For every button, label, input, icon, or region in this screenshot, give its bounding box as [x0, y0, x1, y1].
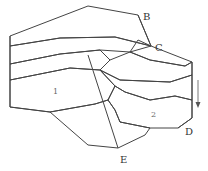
block-number-1: 1 [53, 87, 58, 96]
layer-top-v-pattern [10, 6, 151, 46]
fault-plane-hatch [50, 100, 150, 148]
label-c: C [155, 42, 163, 53]
outline-left [10, 36, 50, 112]
outline-right [178, 62, 192, 128]
block-number-2: 2 [151, 110, 156, 119]
label-d: D [185, 126, 193, 137]
displacement-arrow-icon [196, 80, 201, 108]
label-b: B [143, 11, 150, 22]
fault-trace [88, 55, 118, 148]
label-e: E [120, 154, 127, 165]
fault-block-diagram: B C D E 1 2 [0, 0, 208, 171]
